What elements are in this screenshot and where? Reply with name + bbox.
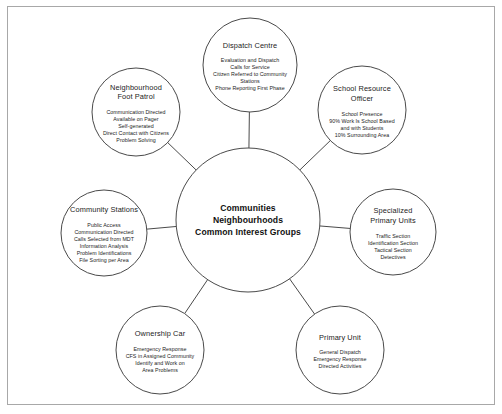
spoke-line-primary-unit — [290, 279, 315, 314]
node-detail-community-stations-0: Public Access — [87, 222, 121, 228]
node-detail-school-resource-officer-1: 90% Work Is School Based — [329, 118, 394, 124]
node-detail-neighbourhood-foot-patrol-1: Available on Pager — [113, 116, 158, 122]
node-detail-community-stations-3: Information Analysis — [80, 243, 129, 249]
node-detail-dispatch-centre-0: Evaluation and Dispatch — [221, 57, 279, 63]
node-detail-school-resource-officer-3: 10% Surrounding Area — [335, 132, 389, 138]
node-detail-community-stations-1: Communication Directed — [74, 229, 133, 235]
node-title-neighbourhood-foot-patrol-line-0: Neighbourhood — [110, 83, 162, 92]
node-title-ownership-car: Ownership Car — [135, 329, 186, 338]
node-detail-ownership-car-0: Emergency Response — [133, 346, 186, 352]
spoke-line-community-stations — [147, 226, 176, 229]
node-detail-specialized-primary-units-2: Tactical Section — [374, 247, 412, 253]
hub-text-line-0: Communities — [220, 203, 276, 213]
diagram-canvas: Dispatch CentreEvaluation and DispatchCa… — [0, 0, 502, 414]
node-detail-ownership-car-3: Area Problems — [142, 367, 178, 373]
hub-text-line-1: Neighbourhoods — [213, 215, 283, 225]
node-title-primary-unit: Primary Unit — [319, 333, 361, 342]
node-title-community-stations: Community Stations — [70, 205, 138, 214]
node-neighbourhood-foot-patrol[interactable]: NeighbourhoodFoot PatrolCommunication Di… — [92, 68, 180, 156]
node-detail-community-stations-2: Calls Selected from MDT — [74, 236, 135, 242]
node-school-resource-officer[interactable]: School ResourceOfficerSchool Presence90%… — [318, 66, 406, 154]
node-detail-primary-unit-1: Emergency Response — [313, 356, 366, 362]
hub-text-line-2: Common Interest Groups — [195, 227, 301, 237]
diagram-root: Dispatch CentreEvaluation and DispatchCa… — [0, 0, 502, 414]
node-detail-specialized-primary-units-3: Detectives — [380, 254, 406, 260]
node-community-stations[interactable]: Community StationsPublic AccessCommunica… — [61, 190, 147, 276]
spoke-line-specialized-primary-units — [320, 226, 350, 229]
node-detail-primary-unit-2: Directed Activities — [319, 363, 362, 369]
node-detail-specialized-primary-units-0: Traffic Section — [376, 233, 410, 239]
hub-communities-hub[interactable]: CommunitiesNeighbourhoodsCommon Interest… — [176, 148, 320, 292]
node-detail-neighbourhood-foot-patrol-2: Self-generated — [118, 123, 153, 129]
node-title-school-resource-officer-line-1: Officer — [351, 94, 374, 103]
spoke-line-school-resource-officer — [300, 141, 331, 170]
node-detail-community-stations-4: Problem Identifications — [77, 250, 132, 256]
node-detail-primary-unit-0: General Dispatch — [319, 349, 361, 355]
node-detail-specialized-primary-units-1: Identification Section — [368, 240, 418, 246]
node-detail-neighbourhood-foot-patrol-4: Problem Solving — [116, 137, 155, 143]
node-detail-school-resource-officer-0: School Presence — [342, 111, 383, 117]
node-detail-ownership-car-1: CFS in Assigned Community — [126, 353, 195, 359]
node-specialized-primary-units[interactable]: SpecializedPrimary UnitsTraffic SectionI… — [350, 189, 436, 275]
node-detail-neighbourhood-foot-patrol-3: Direct Contact with Citizens — [103, 130, 169, 136]
node-ownership-car[interactable]: Ownership CarEmergency ResponseCFS in As… — [116, 306, 204, 394]
node-title-neighbourhood-foot-patrol-line-1: Foot Patrol — [117, 92, 155, 101]
node-detail-dispatch-centre-4: Phone Reporting First Phase — [215, 85, 284, 91]
node-dispatch-centre[interactable]: Dispatch CentreEvaluation and DispatchCa… — [203, 18, 297, 112]
spoke-line-neighbourhood-foot-patrol — [168, 143, 197, 170]
node-title-dispatch-centre: Dispatch Centre — [223, 41, 278, 50]
node-primary-unit[interactable]: Primary UnitGeneral DispatchEmergency Re… — [296, 306, 384, 394]
node-detail-dispatch-centre-1: Calls for Service — [230, 64, 269, 70]
node-title-school-resource-officer-line-0: School Resource — [333, 84, 391, 93]
node-detail-neighbourhood-foot-patrol-0: Communication Directed — [106, 109, 165, 115]
node-detail-ownership-car-2: Identify and Work on — [135, 360, 184, 366]
node-detail-community-stations-5: File Sorting per Area — [79, 257, 128, 263]
node-title-specialized-primary-units-line-0: Specialized — [374, 206, 413, 215]
node-detail-dispatch-centre-2: Citizen Referred to Community — [213, 71, 287, 77]
node-title-specialized-primary-units-line-1: Primary Units — [370, 216, 416, 225]
spoke-line-ownership-car — [185, 280, 208, 314]
node-detail-school-resource-officer-2: and with Students — [341, 125, 384, 131]
node-detail-dispatch-centre-3: Stations — [240, 78, 260, 84]
hub-group: CommunitiesNeighbourhoodsCommon Interest… — [176, 148, 320, 292]
